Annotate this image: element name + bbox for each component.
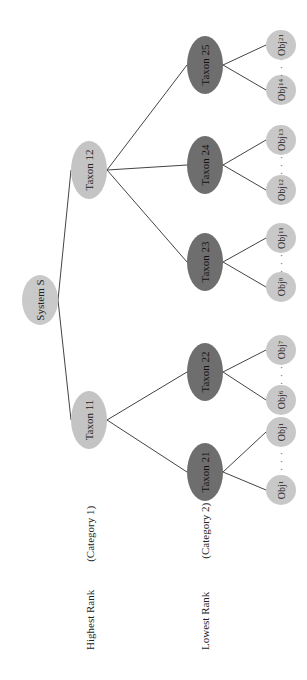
- leaf-obj: Obj1: [266, 417, 296, 447]
- node-taxon-22: Taxon 22: [187, 343, 223, 401]
- node-label: Taxon 11: [83, 400, 95, 441]
- rank-label-lowest: Lowest Rank(Category 2): [199, 503, 211, 650]
- node-label: Taxon 23: [199, 241, 211, 282]
- node-label: Taxon 12: [83, 149, 95, 190]
- edges: [0, 0, 307, 680]
- node-label: Taxon 25: [199, 44, 211, 85]
- ellipsis: · · ·: [276, 365, 287, 385]
- leaf-subscript: 7: [277, 341, 285, 345]
- leaf-subscript: 14: [277, 79, 285, 86]
- leaf-label: Obj: [276, 41, 287, 56]
- ellipsis: · · ·: [276, 253, 287, 273]
- leaf-label: Obj: [276, 136, 287, 151]
- node-label: System S: [34, 279, 46, 320]
- leaf-subscript: 12: [277, 179, 285, 186]
- leaf-obj: Obj21: [266, 30, 296, 60]
- leaf-obj: Obj7: [266, 335, 296, 365]
- leaf-label: Obj: [276, 186, 287, 201]
- node-taxon-24: Taxon 24: [187, 136, 223, 194]
- leaf-obj: Obj6: [266, 385, 296, 415]
- node-taxon-12: Taxon 12: [71, 141, 107, 199]
- rank-name: Highest Rank: [84, 590, 96, 650]
- ellipsis: · · ·: [276, 155, 287, 175]
- leaf-subscript: 11: [277, 227, 285, 234]
- ellipsis: · · ·: [276, 451, 287, 471]
- node-label: Taxon 22: [199, 351, 211, 392]
- leaf-subscript: 21: [277, 34, 285, 41]
- node-taxon-21: Taxon 21: [187, 443, 223, 501]
- leaf-label: Obj: [276, 394, 287, 409]
- node-taxon-23: Taxon 23: [187, 233, 223, 291]
- rank-category: (Category 1): [84, 506, 96, 562]
- leaf-label: Obj: [276, 484, 287, 499]
- leaf-subscript: 8: [277, 278, 285, 282]
- leaf-subscript: 1: [277, 481, 285, 485]
- node-taxon-11: Taxon 11: [71, 391, 107, 449]
- leaf-obj: Obj12: [266, 175, 296, 205]
- node-system-s: System S: [22, 275, 58, 325]
- leaf-obj: Obj11: [266, 223, 296, 253]
- leaf-obj: Obj14: [266, 75, 296, 105]
- ellipsis: · · ·: [276, 57, 287, 77]
- taxonomy-diagram: System S Taxon 11 Taxon 12 Taxon 21 Taxo…: [0, 0, 307, 680]
- rank-label-highest: Highest Rank(Category 1): [84, 506, 96, 650]
- node-label: Taxon 21: [199, 451, 211, 492]
- rank-category: (Category 2): [199, 503, 211, 559]
- leaf-subscript: 1: [277, 423, 285, 427]
- node-taxon-25: Taxon 25: [187, 36, 223, 94]
- leaf-label: Obj: [276, 86, 287, 101]
- rank-name: Lowest Rank: [199, 592, 211, 650]
- leaf-subscript: 13: [277, 129, 285, 136]
- leaf-obj: Obj8: [266, 272, 296, 302]
- leaf-label: Obj: [276, 344, 287, 359]
- node-label: Taxon 24: [199, 144, 211, 185]
- leaf-obj: Obj1: [266, 475, 296, 505]
- leaf-subscript: 6: [277, 391, 285, 395]
- leaf-label: Obj: [276, 234, 287, 249]
- leaf-label: Obj: [276, 426, 287, 441]
- leaf-label: Obj: [276, 281, 287, 296]
- leaf-obj: Obj13: [266, 125, 296, 155]
